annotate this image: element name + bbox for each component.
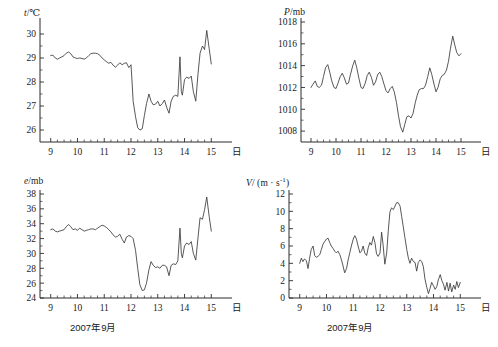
svg-text:14: 14 (429, 303, 439, 313)
svg-text:32: 32 (27, 234, 37, 244)
svg-text:26: 26 (27, 279, 37, 289)
svg-text:28: 28 (27, 77, 37, 87)
svg-text:1010: 1010 (278, 105, 297, 115)
vapor-pressure-y-axis-label: e/mb (24, 176, 43, 186)
svg-text:30: 30 (27, 29, 37, 39)
svg-text:10: 10 (276, 207, 286, 217)
svg-text:1018: 1018 (278, 17, 297, 27)
svg-text:0: 0 (280, 293, 285, 303)
svg-text:11: 11 (100, 303, 109, 313)
svg-text:4: 4 (280, 259, 285, 269)
svg-text:14: 14 (180, 303, 190, 313)
svg-text:15: 15 (207, 147, 217, 157)
pressure-plot: 1008101010121014101610189101112131415日 (249, 0, 498, 172)
svg-text:30: 30 (27, 249, 37, 259)
svg-text:10: 10 (73, 303, 83, 313)
svg-text:14: 14 (180, 147, 190, 157)
svg-text:11: 11 (349, 303, 358, 313)
svg-text:15: 15 (456, 147, 466, 157)
vapor-pressure-plot: 24262830323436389101112131415日 (0, 172, 249, 324)
svg-text:10: 10 (322, 303, 332, 313)
svg-text:2: 2 (280, 276, 285, 286)
svg-text:9: 9 (297, 303, 302, 313)
svg-text:26: 26 (27, 125, 37, 135)
svg-text:15: 15 (456, 303, 466, 313)
wind-speed-y-axis-label: V/ (m · s-1) (246, 176, 289, 188)
svg-text:日: 日 (481, 146, 491, 157)
temperature-y-axis-label: t/℃ (24, 7, 40, 18)
pressure-y-axis-label: P/mb (284, 7, 305, 17)
temperature-plot: 26272829309101112131415日 (0, 0, 249, 172)
svg-text:11: 11 (100, 147, 109, 157)
svg-text:10: 10 (331, 147, 341, 157)
svg-text:14: 14 (431, 147, 441, 157)
wind-speed-plot: 0246810129101112131415日 (249, 172, 498, 324)
svg-text:12: 12 (126, 147, 136, 157)
svg-text:15: 15 (207, 303, 217, 313)
svg-text:13: 13 (406, 147, 416, 157)
svg-text:12: 12 (126, 303, 136, 313)
svg-text:6: 6 (280, 241, 285, 251)
svg-text:34: 34 (27, 219, 37, 229)
svg-text:9: 9 (48, 303, 53, 313)
svg-text:日: 日 (232, 146, 242, 157)
svg-text:13: 13 (153, 147, 163, 157)
svg-text:12: 12 (276, 189, 286, 199)
svg-text:日: 日 (232, 302, 242, 313)
svg-text:日: 日 (481, 302, 491, 313)
svg-text:1008: 1008 (278, 126, 297, 136)
svg-text:28: 28 (27, 264, 37, 274)
svg-text:10: 10 (73, 147, 83, 157)
svg-text:12: 12 (381, 147, 391, 157)
temperature-panel: t/℃ 26272829309101112131415日 (0, 0, 249, 172)
svg-text:11: 11 (356, 147, 365, 157)
svg-text:9: 9 (48, 147, 53, 157)
svg-text:8: 8 (280, 224, 285, 234)
svg-text:1016: 1016 (278, 39, 297, 49)
vapor-pressure-date-label: 2007年9月 (70, 320, 116, 334)
svg-text:29: 29 (27, 53, 37, 63)
wind-speed-date-label: 2007年9月 (327, 320, 373, 334)
svg-text:27: 27 (27, 101, 37, 111)
pressure-panel: P/mb 10081010101210141016101891011121314… (249, 0, 498, 172)
svg-text:9: 9 (309, 147, 314, 157)
wind-speed-panel: V/ (m · s-1) 0246810129101112131415日 200… (249, 172, 498, 347)
svg-text:24: 24 (27, 293, 37, 303)
svg-text:36: 36 (27, 204, 37, 214)
svg-text:38: 38 (27, 189, 37, 199)
svg-text:13: 13 (402, 303, 412, 313)
svg-text:12: 12 (375, 303, 385, 313)
weather-timeseries-figure: t/℃ 26272829309101112131415日 P/mb 100810… (0, 0, 498, 347)
vapor-pressure-panel: e/mb 24262830323436389101112131415日 2007… (0, 172, 249, 347)
svg-text:13: 13 (153, 303, 163, 313)
svg-text:1014: 1014 (278, 61, 297, 71)
svg-text:1012: 1012 (278, 83, 297, 93)
